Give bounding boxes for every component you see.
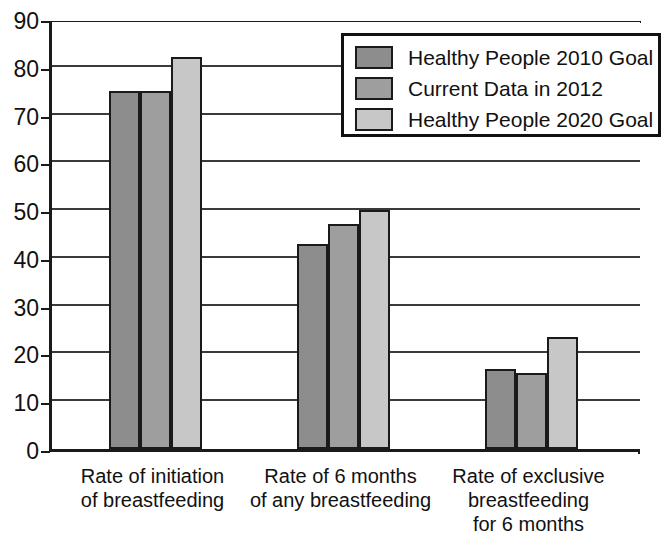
legend-item: Healthy People 2020 Goal	[355, 104, 658, 135]
y-axis-tick-label: 50	[0, 201, 39, 224]
y-axis-tick-label: 40	[0, 249, 39, 272]
y-axis-tick-label: 70	[0, 106, 39, 129]
legend-item: Current Data in 2012	[355, 73, 658, 104]
bar	[359, 210, 390, 449]
legend-item-label: Healthy People 2010 Goal	[408, 47, 653, 68]
bar	[516, 373, 547, 449]
legend-color-swatch	[355, 108, 393, 131]
bar	[171, 57, 202, 449]
y-axis-tick-label: 30	[0, 297, 39, 320]
y-axis-tick-label: 0	[0, 440, 39, 463]
y-axis-tick-label: 90	[0, 10, 39, 33]
bar	[547, 337, 578, 449]
bar	[140, 91, 171, 449]
y-axis-tick-label: 60	[0, 153, 39, 176]
legend-rows: Healthy People 2010 GoalCurrent Data in …	[355, 42, 658, 135]
bar	[109, 91, 140, 449]
x-axis-category-label: Rate of 6 months of any breastfeeding	[236, 464, 446, 512]
y-axis-tick-label: 10	[0, 392, 39, 415]
legend-item-label: Current Data in 2012	[408, 78, 603, 99]
bar-chart: 0102030405060708090 Rate of initiation o…	[0, 0, 671, 539]
x-axis-category-label: Rate of initiation of breastfeeding	[48, 464, 258, 512]
legend-item: Healthy People 2010 Goal	[355, 42, 658, 73]
legend-color-swatch	[355, 46, 393, 69]
chart-legend: Healthy People 2010 GoalCurrent Data in …	[341, 33, 661, 137]
bar	[328, 224, 359, 449]
legend-item-label: Healthy People 2020 Goal	[408, 109, 653, 130]
bar	[297, 244, 328, 449]
y-axis-tick-label: 80	[0, 58, 39, 81]
bar	[485, 369, 516, 449]
y-axis-tick-label: 20	[0, 344, 39, 367]
legend-color-swatch	[355, 77, 393, 100]
x-axis-category-label: Rate of exclusive breastfeeding for 6 mo…	[424, 464, 634, 536]
